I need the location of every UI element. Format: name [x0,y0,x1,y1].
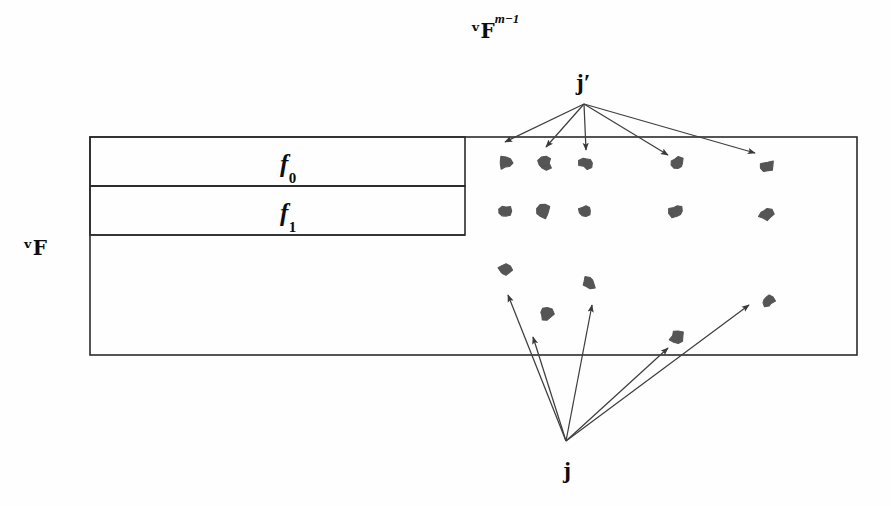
f0-strip-box [90,137,465,186]
scatter-point [578,206,590,217]
scatter-point [671,157,683,169]
label-f1: f1 [280,200,296,230]
scatter-point [759,209,775,221]
arrow-j [566,305,749,441]
scatter-point [669,206,683,218]
scatter-point [583,277,595,289]
scatter-point [499,206,512,216]
scatter-point [498,264,512,276]
arrow-j [533,337,566,441]
arrow-j-prime [584,104,668,155]
arrow-j-prime [584,104,586,150]
scatter-point [537,204,550,218]
region-boxes [90,137,857,355]
label-field-outer: ᵛF [23,238,47,258]
diagram-svg [0,0,891,506]
prime-mark: ′ [584,69,591,95]
arrow-j-prime [546,104,584,147]
label-field-power: ᵛFm−1 [471,19,520,41]
scatter-point [760,161,773,172]
outer-region-box [90,137,857,355]
arrow-j-prime [584,104,755,153]
scatter-point [541,308,554,321]
label-j: j [563,458,571,482]
label-f0: f0 [280,151,296,181]
f1-strip-box [90,186,465,235]
scatter-point [500,156,513,169]
scatter-point [763,295,775,307]
label-j-prime: j′ [576,70,591,94]
scatter-point [579,158,593,169]
arrow-j [508,295,566,441]
scatter-point [538,156,552,170]
figure-canvas: ᵛF ᵛFm−1 f0 f1 j′ j [0,0,891,506]
arrow-fan-j-prime [505,104,755,155]
scatter-point [669,331,683,344]
